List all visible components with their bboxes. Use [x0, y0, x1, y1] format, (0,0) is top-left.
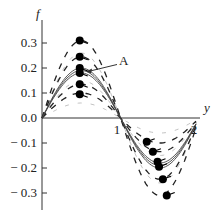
x-tick-label: 2 — [191, 122, 198, 137]
x-tick-label: 1 — [114, 122, 121, 137]
axes: f y — [36, 6, 210, 210]
annotation-label: A — [119, 53, 129, 68]
y-tick-label: 0.2 — [21, 60, 37, 75]
y-ticks: 0.30.20.10.0− 0.1− 0.2− 0.3 — [10, 35, 47, 200]
y-tick-label: 0.3 — [21, 35, 37, 50]
y-tick-label: 0.1 — [21, 85, 37, 100]
y-tick-label: − 0.3 — [10, 185, 37, 200]
annotation-a: A — [86, 53, 129, 74]
y-tick-label: − 0.2 — [10, 160, 37, 175]
annotation-arrow — [88, 65, 117, 72]
y-axis-title: f — [36, 6, 42, 21]
phase-plot: f y 0.30.20.10.0− 0.1− 0.2− 0.3 12 A — [0, 0, 222, 217]
y-tick-label: 0.0 — [21, 110, 37, 125]
x-axis-title: y — [202, 100, 210, 115]
y-tick-label: − 0.1 — [10, 135, 37, 150]
